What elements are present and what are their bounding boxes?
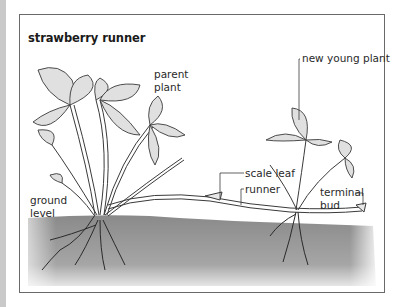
label-parent-plant-line2: plant [154, 81, 188, 94]
diagram-title: strawberry runner [28, 31, 145, 45]
label-scale-leaf: scale leaf [245, 167, 295, 180]
label-new-young-plant: new young plant [302, 52, 390, 65]
label-ground-level-line1: ground [30, 194, 67, 207]
strawberry-runner-illustration [0, 0, 397, 307]
label-ground-level-line2: level [30, 207, 67, 220]
soil-layer [28, 212, 378, 288]
label-parent-plant-line1: parent [154, 68, 188, 81]
label-terminal-bud-line2: bud [320, 199, 364, 212]
label-terminal-bud-line1: terminal [320, 186, 364, 199]
label-ground-level: ground level [30, 194, 67, 220]
label-parent-plant: parent plant [154, 68, 188, 94]
label-runner: runner [245, 183, 280, 196]
label-terminal-bud: terminal bud [320, 186, 364, 212]
leader-lines [220, 59, 363, 205]
